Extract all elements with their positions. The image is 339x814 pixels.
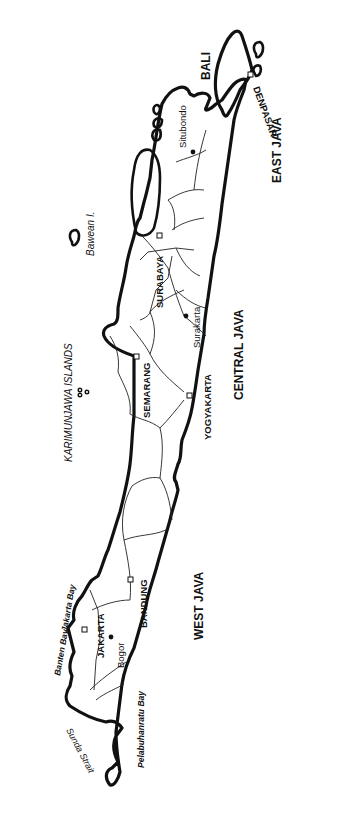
label-semarang: SEMARANG [141,363,152,418]
semarang-marker [134,354,139,359]
label-karimunjawa-islands: KARIMUNJAWA ISLANDS [63,343,74,462]
surabaya-marker [157,233,162,238]
label-situbondo: Situbondo [177,105,188,148]
bali-coastline [215,31,252,116]
surakarta-marker [184,314,189,319]
label-west-java: WEST JAVA [192,571,206,640]
label-jakarta: JAKARTA [95,613,106,658]
label-bandung: BANDUNG [138,579,149,628]
nusa-penida-island [254,42,263,57]
label-bogor: Bogor [115,643,126,668]
yogyakarta-marker [187,393,192,398]
label-surakarta: Surakarta [191,306,202,348]
karimunjawa-island [78,393,82,397]
small-island [253,65,260,76]
situbondo-marker [191,150,196,155]
jakarta-marker [82,627,87,632]
label-denpasar: DENPASAR [251,85,279,138]
java-coastline [66,79,246,785]
bandung-marker [128,577,133,582]
label-yogyakarta: YOGYAKARTA [202,374,213,440]
label-sunda-strait: Sunda Strait [64,726,96,775]
karimunjawa-island [78,388,82,392]
bogor-marker [109,635,114,640]
bawean-island [70,230,79,245]
label-surabaya: SURABAYA [154,256,165,308]
label-pelabuhanratu-bay: Pelabuhanratu Bay [136,690,146,768]
label-central-java: CENTRAL JAVA [232,309,246,400]
small-island [154,105,160,114]
java-bali-map: WEST JAVA CENTRAL JAVA EAST JAVA BALI JA… [0,0,339,814]
karimunjawa-island [85,390,89,394]
denpasar-marker [248,72,253,77]
label-bali: BALI [199,52,213,80]
label-bawean-island: Bawean I. [85,212,96,256]
label-banten-bay: Banten Bay [52,627,70,676]
